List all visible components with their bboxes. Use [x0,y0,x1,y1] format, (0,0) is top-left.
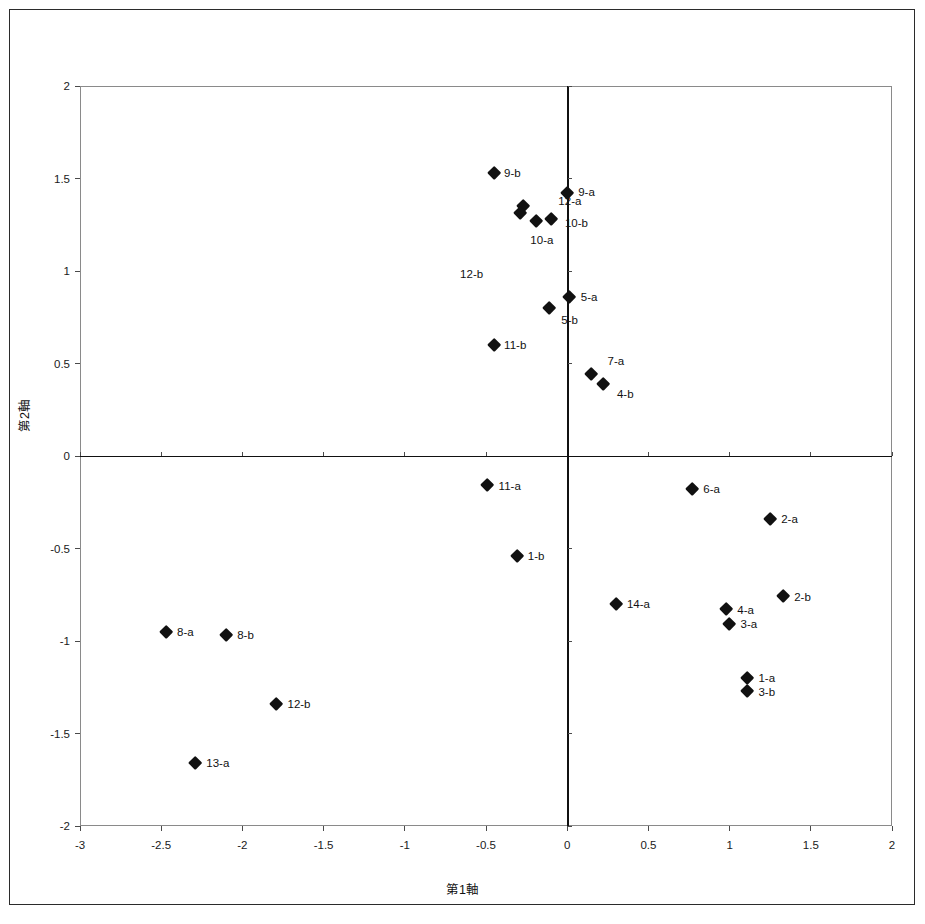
data-point-label: 14-a [627,598,650,610]
x-axis-inner-tick [892,452,893,456]
x-axis-tick [729,826,730,831]
data-point-label: 12-a [558,195,581,207]
data-point-label: 10-a [530,234,553,246]
y-axis-tick-label: 1.5 [38,173,70,185]
data-point-label: 13-a [206,757,229,769]
x-axis-tick [242,826,243,831]
data-point-label: 5-b [561,314,578,326]
x-axis-tick-label: -2.5 [151,839,171,851]
y-axis-inner-tick [568,641,572,642]
y-axis-tick [75,86,80,87]
x-axis-tick [161,826,162,831]
x-axis-tick-label: -0.5 [476,839,496,851]
data-point-label: 10-b [565,217,588,229]
x-axis-inner-tick [161,452,162,456]
x-axis-inner-tick [810,452,811,456]
scatter-plot-page: -3-2.5-2-1.5-1-0.500.511.5221.510.50-0.5… [0,0,925,924]
y-axis-tick-label: 2 [38,80,70,92]
x-axis-tick-label: -3 [75,839,85,851]
x-axis-tick [892,826,893,831]
data-point-label: 1-a [758,672,775,684]
x-axis-inner-tick [486,452,487,456]
y-axis-tick [75,826,80,827]
y-axis-inner-tick [568,271,572,272]
data-point-label: 8-b [237,629,254,641]
y-axis-inner-tick [568,363,572,364]
y-axis-inner-tick [568,86,572,87]
data-point-label: 12-b [460,268,483,280]
y-axis-tick-label: -1 [38,635,70,647]
data-point-label: 4-a [737,604,754,616]
x-axis-inner-tick [323,452,324,456]
y-axis-tick [75,548,80,549]
x-axis-tick [486,826,487,831]
x-axis-tick-label: -2 [237,839,247,851]
data-point-label: 11-a [499,480,521,492]
y-axis-tick-label: -0.5 [38,543,70,555]
y-axis-tick-label: 0 [38,450,70,462]
data-point-label: 9-b [504,167,521,179]
x-axis-tick [404,826,405,831]
y-axis-tick [75,271,80,272]
x-axis-tick-label: 0.5 [640,839,656,851]
data-point-label: 7-a [608,355,625,367]
y-axis-tick-label: 0.5 [38,358,70,370]
y-axis-inner-tick [568,548,572,549]
y-axis-tick-label: 1 [38,265,70,277]
data-point-label: 3-b [758,686,775,698]
data-point-label: 3-a [741,618,758,630]
x-axis-tick [810,826,811,831]
y-axis-inner-tick [568,826,572,827]
y-axis-tick [75,641,80,642]
x-axis-inner-tick [648,452,649,456]
y-axis-inner-tick [568,178,572,179]
y-axis-tick-label: -2 [38,820,70,832]
x-axis-tick [80,826,81,831]
data-point-label: 11-b [504,339,526,351]
x-axis-inner-tick [242,452,243,456]
y-axis-tick [75,363,80,364]
data-point-label: 2-a [781,513,798,525]
x-axis-title: 第1軸 [0,879,925,898]
x-axis-tick-label: -1 [400,839,410,851]
x-axis-inner-tick [729,452,730,456]
x-axis-tick-label: 1 [726,839,732,851]
x-axis-tick [648,826,649,831]
y-axis-tick [75,733,80,734]
data-point-label: 6-a [703,483,720,495]
y-axis-title: 第2軸 [14,399,33,432]
x-axis-tick-label: 2 [889,839,895,851]
data-point-label: 2-b [794,591,811,603]
y-axis-tick [75,178,80,179]
x-axis-inner-tick [404,452,405,456]
data-point-label: 5-a [581,291,598,303]
data-point-label: 12-b [288,698,311,710]
data-point-label: 8-a [177,626,194,638]
x-axis-tick-label: 0 [564,839,570,851]
y-axis-inner-tick [568,733,572,734]
y-axis-tick-label: -1.5 [38,728,70,740]
x-axis-tick [323,826,324,831]
x-axis-tick-label: 1.5 [803,839,819,851]
data-point-label: 1-b [528,550,545,562]
data-point-label: 4-b [617,388,634,400]
x-axis-tick [567,826,568,831]
y-axis-tick [75,456,80,457]
x-axis-tick-label: -1.5 [314,839,334,851]
